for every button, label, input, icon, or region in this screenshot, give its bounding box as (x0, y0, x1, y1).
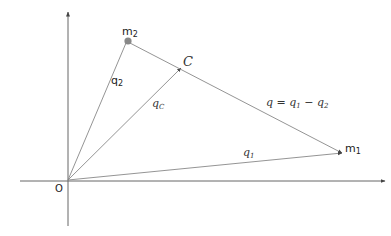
mass-m2-dot (124, 37, 131, 44)
qC-label: qC (152, 97, 165, 111)
two-body-diagram: O m2 m1 C q2 qC q1 q = q1 − q2 (0, 0, 391, 236)
q-relation-label: q = q1 − q2 (266, 96, 329, 110)
m2-label: m2 (122, 25, 138, 39)
vector-q2 (68, 43, 126, 180)
q2-label: q2 (111, 74, 123, 88)
C-label: C (183, 54, 193, 69)
origin-label: O (55, 183, 63, 194)
q1-label: q1 (243, 146, 255, 160)
m1-label: m1 (345, 142, 361, 156)
vector-qC (68, 68, 181, 180)
vector-q1 (68, 153, 342, 180)
